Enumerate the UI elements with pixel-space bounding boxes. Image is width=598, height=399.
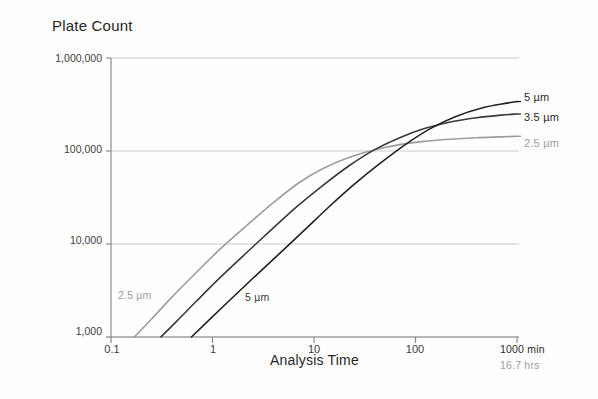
inline-label-5um: 5 µm: [245, 292, 269, 303]
y-tick-label-1000: 1,000: [2, 326, 102, 337]
y-tick-label-10000: 10,000: [2, 235, 102, 246]
legend-leader-lines-group: [517, 102, 521, 137]
series-line-5_m: [191, 102, 517, 337]
series-line-3_5_m: [161, 114, 517, 337]
chart-title: Plate Count: [52, 18, 133, 33]
x-axis-title: Analysis Time: [270, 353, 359, 367]
chart-figure: Plate Count Analysis Time 1,000,000 100,…: [0, 0, 598, 399]
x-tick-label-1000-min: 1000 min: [500, 344, 545, 355]
legend-label-2_5um: 2.5 µm: [524, 138, 559, 149]
x-axis-secondary-note: 16.7 hrs: [500, 360, 540, 371]
gridlines-group: [111, 58, 519, 337]
x-tick-label-1: 1: [210, 344, 216, 355]
series-paths-group: [134, 102, 517, 337]
x-tick-label-100: 100: [406, 344, 424, 355]
legend-label-3_5um: 3.5 µm: [524, 112, 559, 123]
axis-ticks-group: [106, 58, 517, 343]
x-tick-label-0.1: 0.1: [104, 344, 119, 355]
y-tick-label-100000: 100,000: [2, 144, 102, 155]
x-tick-label-10: 10: [308, 344, 320, 355]
inline-label-2_5um: 2.5 µm: [118, 290, 152, 301]
y-tick-label-1000000: 1,000,000: [2, 53, 102, 64]
axis-lines-group: [111, 58, 519, 337]
legend-label-5um: 5 µm: [524, 92, 549, 103]
